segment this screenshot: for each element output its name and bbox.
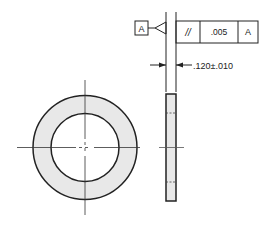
thickness-dimension: .120±.010 [150,61,233,71]
parallelism-symbol-icon: // [184,27,192,38]
front-view-washer [17,80,140,215]
engineering-drawing: A // .005 A .120±.010 [0,0,277,231]
feature-control-frame: // .005 A [176,21,258,43]
arrow-left-icon [176,63,183,68]
extension-lines [166,12,176,92]
dimension-text: .120±.010 [193,61,233,71]
fcf-tolerance: .005 [211,27,228,37]
datum-feature-symbol: A [135,21,166,35]
arrow-right-icon [159,63,166,68]
datum-label: A [138,24,144,34]
side-view [159,94,184,201]
fcf-datum: A [245,27,251,37]
datum-triangle-icon [155,22,166,34]
